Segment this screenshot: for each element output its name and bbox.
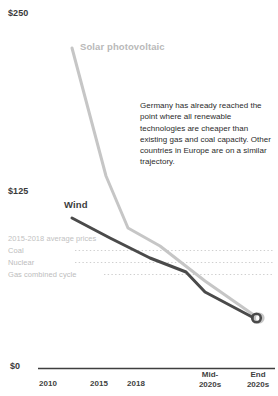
chart-plot-area (0, 0, 278, 396)
solar-photovoltaic-line (72, 48, 258, 318)
y-axis-label-top: $250 (8, 8, 28, 18)
reference-lines (75, 251, 274, 275)
y-axis-label-zero: $0 (10, 361, 20, 371)
y-axis-label-mid: $125 (8, 186, 28, 196)
series-label-wind: Wind (64, 199, 88, 210)
x-tick-2015: 2015 (82, 379, 116, 389)
wind-line (72, 218, 254, 318)
reference-label-nuclear: Nuclear (8, 258, 34, 267)
x-tick-end-2020s: End 2020s (240, 370, 276, 389)
reference-label-coal: Coal (8, 246, 24, 255)
x-tick-2010: 2010 (31, 379, 65, 389)
price-trend-chart: $250 $125 $0 Solar photovoltaic Wind 201… (0, 0, 278, 396)
x-tick-mid-2020s: Mid- 2020s (192, 370, 228, 389)
series-label-solar: Solar photovoltaic (80, 41, 165, 52)
reference-heading-label: 2015-2018 average prices (8, 234, 96, 243)
reference-label-gas-combined-cycle: Gas combined cycle (8, 270, 76, 279)
chart-annotation-note: Germany has already reached the point wh… (140, 100, 272, 168)
x-tick-2018: 2018 (119, 379, 153, 389)
